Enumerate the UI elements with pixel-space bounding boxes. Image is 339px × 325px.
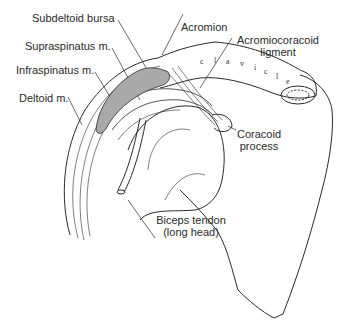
- svg-text:c: c: [264, 67, 268, 76]
- svg-text:l: l: [276, 72, 279, 81]
- leader-acromion: [162, 14, 183, 55]
- leader-deltoid: [68, 97, 82, 125]
- label-supraspinatus: Supraspinatus m.: [25, 40, 111, 52]
- label-deltoid: Deltoid m.: [19, 92, 69, 104]
- svg-text:e: e: [286, 77, 290, 86]
- svg-text:i: i: [254, 63, 257, 72]
- biceps-tendon: [118, 118, 146, 192]
- svg-text:l: l: [214, 56, 217, 65]
- label-acromion: Acromion: [181, 21, 227, 33]
- humeral-head: [128, 106, 224, 220]
- label-infraspinatus: Infraspinatus m.: [16, 64, 94, 76]
- label-subdeltoid-bursa: Subdeltoid bursa: [32, 12, 115, 24]
- label-coracoid-process: Coracoid process: [229, 128, 289, 152]
- label-acromiocoracoid-ligament: Acromiocoracoid ligment: [228, 34, 328, 58]
- svg-text:c: c: [200, 57, 204, 66]
- scapula-outline: [180, 75, 333, 318]
- label-biceps-tendon: Biceps tendon (long head): [146, 214, 236, 238]
- clavicle-cross-section: [281, 86, 315, 104]
- svg-text:v: v: [240, 59, 244, 68]
- svg-text:a: a: [226, 57, 230, 66]
